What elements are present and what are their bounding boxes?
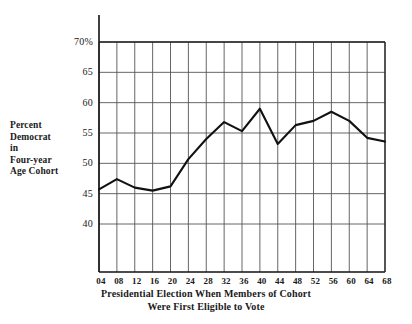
y-tick-label: 50 — [59, 157, 93, 168]
x-axis-title: Presidential Election When Members of Co… — [0, 288, 412, 313]
y-tick-label: 55 — [59, 127, 93, 138]
y-axis-title-line-3: in — [10, 143, 90, 155]
y-tick-label: 70% — [59, 36, 93, 47]
y-tick-label: 60 — [59, 97, 93, 108]
chart-figure: Percent Democrat in Four-year Age Cohort… — [0, 0, 412, 324]
vertical-gridlines — [99, 42, 385, 272]
y-tick-label: 65 — [59, 66, 93, 77]
x-axis-title-line-2: Were First Eligible to Vote — [0, 301, 412, 314]
y-tick-label: 45 — [59, 188, 93, 199]
x-tick-label: 68 — [376, 276, 398, 286]
y-tick-label: 40 — [59, 218, 93, 229]
x-axis-title-line-1: Presidential Election When Members of Co… — [0, 288, 412, 301]
